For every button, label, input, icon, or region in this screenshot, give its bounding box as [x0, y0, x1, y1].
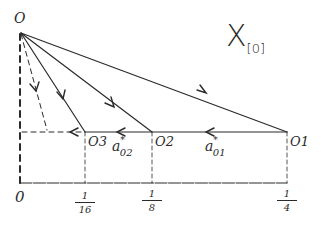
point-label-o1: O1	[290, 134, 309, 149]
diagram-title: X[0]	[226, 18, 265, 56]
title-subscript: [0]	[247, 41, 265, 56]
fraction-numerator: 1	[277, 188, 297, 201]
axis-zero-label: 0	[15, 188, 25, 206]
origin-label: O	[14, 10, 25, 26]
arrow-icon	[105, 97, 114, 107]
fraction-denominator: 4	[277, 201, 297, 213]
edge-label-sub: 02	[120, 147, 133, 158]
point-label-o2: O2	[155, 134, 174, 149]
point-label-o3: O3	[88, 134, 107, 149]
fraction-denominator: 16	[75, 203, 95, 215]
fraction-numerator: 1	[75, 190, 95, 203]
edge-label-sub: 01	[213, 147, 226, 158]
arrow-icon	[197, 85, 206, 93]
edge-label-sup: *	[213, 135, 218, 145]
edge-label-sup: *	[120, 135, 125, 145]
fraction-numerator: 1	[142, 188, 162, 201]
axis-tick-label-1-8: 1 8	[142, 188, 162, 213]
dashed-trajectory	[21, 34, 47, 130]
arrow-icon	[30, 82, 39, 91]
edge-label-a02: a*02	[112, 137, 133, 156]
title-symbol: X	[226, 18, 247, 53]
axis-tick-label-1-4: 1 4	[277, 188, 297, 213]
edge-o-o2	[21, 33, 152, 132]
edge-o-o3	[21, 33, 85, 132]
edge-label-a01: a*01	[205, 137, 226, 156]
axis-tick-label-1-16: 1 16	[75, 190, 95, 215]
fraction-denominator: 8	[142, 201, 162, 213]
